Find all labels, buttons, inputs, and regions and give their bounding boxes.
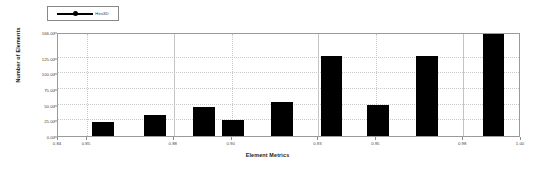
bar — [271, 102, 293, 136]
bar — [321, 56, 343, 136]
bar — [222, 120, 244, 136]
bar — [416, 56, 438, 136]
x-axis-tick-mark — [317, 137, 318, 140]
x-axis-tick-mark — [57, 137, 58, 140]
x-axis-tick-label: 0.88 — [169, 141, 177, 146]
x-axis-tick-label: 0.85 — [82, 141, 90, 146]
x-axis-tick-label: 1.00 — [516, 141, 524, 146]
gridline-vertical — [87, 34, 88, 136]
x-axis-tick-label: 0.93 — [313, 141, 321, 146]
bar — [92, 122, 114, 136]
x-axis-tick-mark — [173, 137, 174, 140]
bar — [483, 33, 505, 136]
x-axis-tick-mark — [462, 137, 463, 140]
gridline-vertical — [318, 34, 319, 136]
legend-label-hex3d: Hex3D — [95, 11, 108, 16]
x-axis-tick-label: 0.98 — [458, 141, 466, 146]
x-axis-tick-label: 0.95 — [371, 141, 379, 146]
bar — [144, 115, 166, 136]
gridline-horizontal — [58, 57, 519, 58]
gridline-horizontal — [58, 88, 519, 89]
gridline-vertical — [463, 34, 464, 136]
x-axis-tick-mark — [231, 137, 232, 140]
plot-area — [57, 33, 520, 137]
bar-chart: Hex3D Number of Elements 0.0025.0050.007… — [0, 0, 535, 169]
x-axis-title: Element Metrics — [0, 152, 535, 158]
x-axis-tick-mark — [375, 137, 376, 140]
legend-marker-icon — [57, 10, 93, 17]
chart-legend: Hex3D — [47, 6, 119, 21]
x-axis-tick-label: 0.84 — [53, 141, 61, 146]
x-axis-tick-mark — [86, 137, 87, 140]
x-axis-tick-label: 0.90 — [226, 141, 234, 146]
gridline-horizontal — [58, 72, 519, 73]
x-axis-tick-mark — [520, 137, 521, 140]
gridline-vertical — [174, 34, 175, 136]
y-axis-ticks: 0.0025.0050.0075.00100.00125.00166.00 — [0, 0, 55, 169]
bar — [193, 107, 215, 136]
bar — [367, 105, 389, 136]
